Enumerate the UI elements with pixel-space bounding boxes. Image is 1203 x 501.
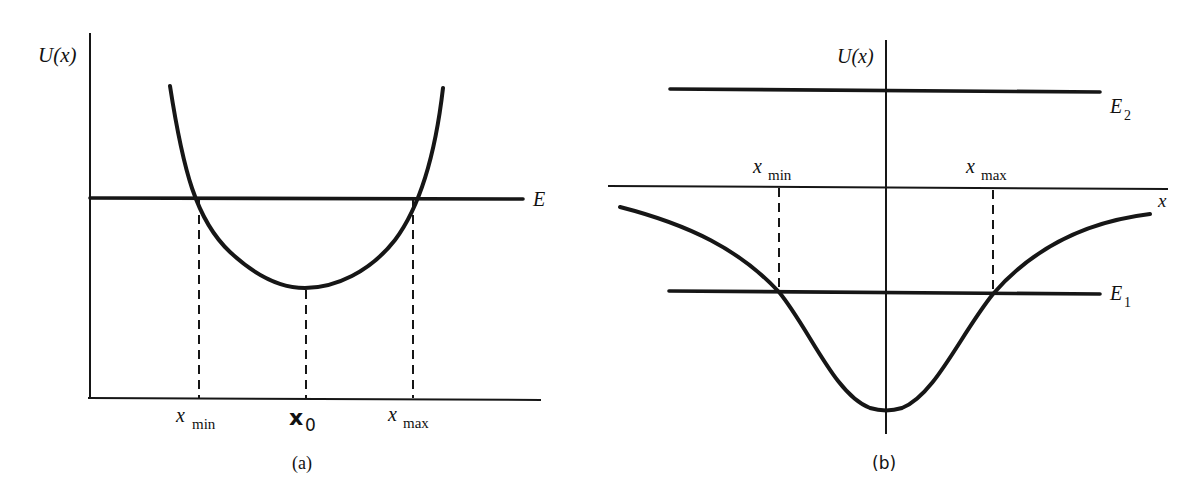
panel-b-e1-subscript: 1	[1124, 295, 1131, 310]
panel-a-potential-curve	[170, 86, 443, 288]
panel-b-e1-label: E	[1109, 282, 1122, 304]
panel-a-x0-subscript: 0	[305, 415, 316, 435]
panel-b-caption: (b)	[872, 453, 896, 473]
panel-b-y-axis-label: U(x)	[837, 45, 874, 68]
panel-b-e1-line	[669, 291, 1100, 294]
panel-b-x-axis-label: x	[1157, 190, 1167, 211]
panel-a-caption: (a)	[292, 453, 312, 474]
panel-a-y-axis-label: U(x)	[38, 43, 76, 67]
panel-b-x-axis	[608, 186, 1168, 189]
panel-a-xmax-label: x	[387, 403, 397, 425]
panel-a-x-axis	[88, 398, 541, 400]
panel-b-xmin-label: x	[752, 155, 762, 177]
panel-a-xmin-subscript: min	[192, 416, 216, 432]
panel-a-x0-label: x	[289, 405, 303, 430]
panel-b-xmax-subscript: max	[981, 167, 1007, 183]
panel-b-xmax-label: x	[965, 155, 975, 177]
panel-a: U(x) E x min x 0 x max (a)	[38, 33, 545, 474]
panel-b-xmin-subscript: min	[768, 167, 792, 183]
panel-b-e2-line	[670, 89, 1100, 92]
panel-a-xmax-subscript: max	[403, 415, 429, 431]
panel-b-e2-subscript: 2	[1124, 108, 1131, 123]
panel-a-energy-label: E	[532, 188, 545, 210]
panel-a-energy-line	[90, 198, 523, 199]
potential-energy-figure: U(x) E x min x 0 x max (a) U(x) E 2 E 1 …	[0, 0, 1203, 501]
panel-a-xmin-label: x	[175, 404, 185, 426]
panel-b-e2-label: E	[1109, 95, 1122, 117]
panel-b: U(x) E 2 E 1 x x min x max (b)	[608, 40, 1168, 473]
